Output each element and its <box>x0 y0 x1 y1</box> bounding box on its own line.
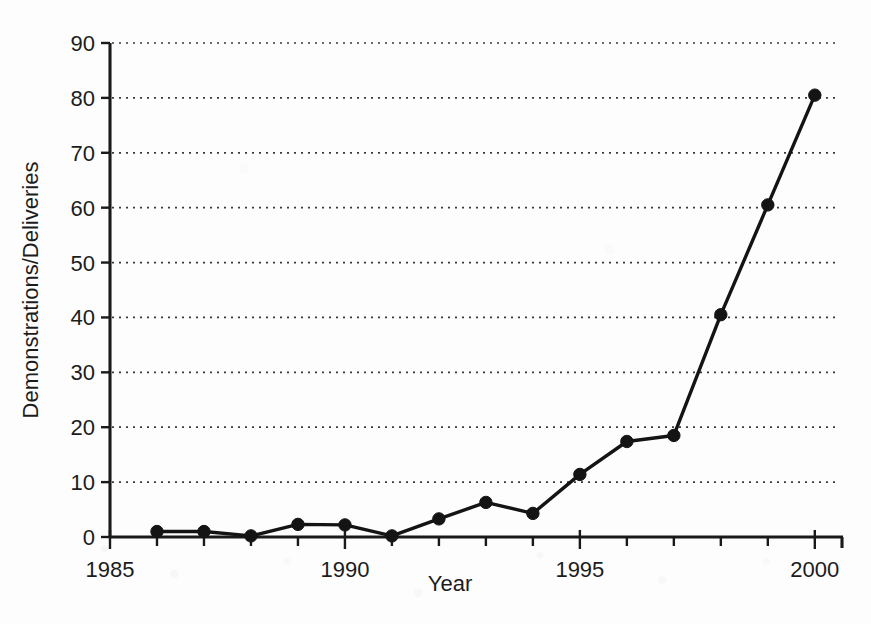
y-axis-tick-label-group: 0102030405060708090 <box>71 31 95 550</box>
data-point-1993 <box>480 496 492 508</box>
y-tick-label-90: 90 <box>71 31 95 56</box>
y-tick-label-60: 60 <box>71 196 95 221</box>
data-point-1989 <box>292 518 304 530</box>
x-axis-title: Year <box>428 571 472 596</box>
x-tick-label-2000: 2000 <box>790 557 839 582</box>
x-tick-label-1995: 1995 <box>555 557 604 582</box>
data-point-1994 <box>527 507 539 519</box>
data-point-1995 <box>574 468 586 480</box>
data-point-1987 <box>198 525 210 537</box>
data-point-1991 <box>386 530 398 542</box>
y-tick-label-10: 10 <box>71 470 95 495</box>
x-tick-label-1985: 1985 <box>86 557 135 582</box>
gridline-group <box>112 43 837 482</box>
y-axis-title: Demonstrations/Deliveries <box>18 162 43 419</box>
x-tick-label-1990: 1990 <box>320 557 369 582</box>
data-point-1990 <box>339 519 351 531</box>
data-point-marker-group <box>151 89 821 542</box>
y-tick-label-30: 30 <box>71 360 95 385</box>
data-point-1988 <box>245 530 257 542</box>
y-tick-label-70: 70 <box>71 141 95 166</box>
data-point-2000 <box>809 89 821 101</box>
y-tick-label-40: 40 <box>71 305 95 330</box>
data-point-1986 <box>151 525 163 537</box>
data-point-1999 <box>762 199 774 211</box>
y-tick-label-80: 80 <box>71 86 95 111</box>
y-tick-label-50: 50 <box>71 251 95 276</box>
data-point-1992 <box>433 513 445 525</box>
y-tick-label-20: 20 <box>71 415 95 440</box>
figure-canvas: 0102030405060708090 1985199019952000 Yea… <box>0 0 871 624</box>
data-point-1998 <box>715 309 727 321</box>
data-point-1996 <box>621 435 633 447</box>
y-tick-label-0: 0 <box>83 525 95 550</box>
data-point-1997 <box>668 429 680 441</box>
line-chart-plot: 0102030405060708090 1985199019952000 Yea… <box>0 0 871 624</box>
